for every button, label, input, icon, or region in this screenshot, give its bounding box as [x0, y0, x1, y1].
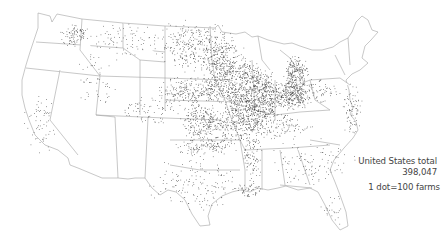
legend-total: 398,047	[358, 168, 437, 177]
us-farm-dot-map	[0, 0, 445, 246]
legend-scale: 1 dot=100 farms	[349, 183, 440, 192]
state-outlines	[22, 13, 378, 230]
legend-region-label: United States total	[358, 157, 437, 166]
us-outline	[22, 13, 378, 230]
